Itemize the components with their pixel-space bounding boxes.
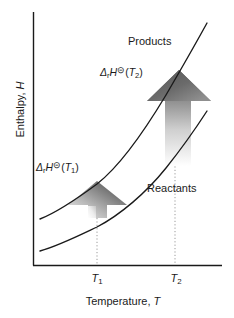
delta-h-t1-arrow	[68, 181, 127, 218]
enthalpy-temperature-diagram: Enthalpy, H Temperature, T T1 T2 Product…	[0, 0, 234, 318]
y-axis-title-symbol: H	[14, 81, 26, 89]
y-axis-title: Enthalpy, H	[15, 60, 26, 160]
tick-label-t2-subscript: 2	[177, 277, 181, 286]
y-axis-title-name: Enthalpy	[14, 96, 26, 138]
tick-label-t2: T2	[163, 273, 189, 286]
y-axis-comma: ,	[14, 89, 26, 95]
products-curve-label: Products	[128, 36, 171, 47]
paren-close-t2: )	[139, 66, 143, 78]
x-axis-title-symbol: T	[154, 295, 161, 307]
plot-canvas	[0, 0, 234, 318]
standard-state-icon-t2: ⊝	[117, 65, 125, 75]
delta-h-t1-label: ΔrH⊝(T1)	[36, 161, 79, 174]
axis-lines	[33, 12, 222, 266]
tick-label-t1: T1	[84, 273, 110, 286]
tick-droplines	[97, 163, 175, 265]
x-axis-title: Temperature, T	[33, 296, 213, 307]
delta-symbol-t1: Δ	[36, 161, 43, 173]
delta-h-t2-label: ΔrH⊝(T2)	[100, 66, 143, 79]
tick-label-t1-subscript: 1	[98, 277, 102, 286]
delta-symbol-t2: Δ	[100, 66, 107, 78]
reactants-curve-label: Reactants	[147, 183, 197, 194]
standard-state-icon-t1: ⊝	[53, 160, 61, 170]
x-axis-title-name: Temperature	[86, 295, 148, 307]
paren-close-t1: )	[75, 161, 79, 173]
